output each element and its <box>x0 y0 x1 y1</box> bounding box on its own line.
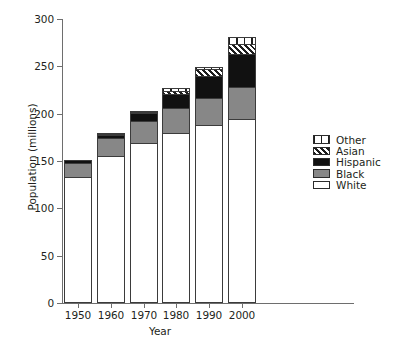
bar-2000 <box>228 37 256 303</box>
bar-segment-black <box>162 108 190 133</box>
bar-segment-asian <box>228 44 256 54</box>
y-axis-title: Population (millions) <box>26 57 38 257</box>
bar-segment-white <box>162 133 190 303</box>
bar-segment-black <box>130 121 158 143</box>
bar-segment-black <box>97 138 125 156</box>
y-tick-mark <box>57 19 63 20</box>
x-axis-line <box>62 303 354 304</box>
x-tick-mark <box>242 303 243 308</box>
bar-1960 <box>97 133 125 303</box>
bar-segment-white <box>64 177 92 303</box>
legend-label: Other <box>336 134 366 146</box>
stacked-bar-chart: 050100150200250300 195019601970198019902… <box>0 0 411 347</box>
y-tick-mark <box>57 161 63 162</box>
legend-label: Asian <box>336 145 365 157</box>
bar-segment-white <box>228 119 256 303</box>
legend-swatch-icon <box>313 158 330 166</box>
x-axis-title: Year <box>62 325 258 337</box>
y-tick-label: 300 <box>18 13 54 25</box>
bar-segment-hispanic <box>162 94 190 108</box>
x-tick-mark <box>144 303 145 308</box>
legend-item-hispanic: Hispanic <box>313 157 381 168</box>
y-tick-mark <box>57 114 63 115</box>
bar-1950 <box>64 160 92 303</box>
legend-swatch-icon <box>313 147 330 155</box>
legend-swatch-icon <box>313 181 330 189</box>
bar-segment-white <box>97 156 125 303</box>
legend-item-black: Black <box>313 168 381 179</box>
y-tick-mark <box>57 303 63 304</box>
bar-1980 <box>162 88 190 303</box>
legend-label: Hispanic <box>336 156 381 168</box>
legend-swatch-icon <box>313 169 330 177</box>
chart-legend: OtherAsianHispanicBlackWhite <box>313 134 381 190</box>
bar-1970 <box>130 111 158 303</box>
legend-swatch-icon <box>313 135 330 143</box>
bar-segment-hispanic <box>228 54 256 87</box>
legend-item-other: Other <box>313 134 381 145</box>
legend-item-asian: Asian <box>313 145 381 156</box>
legend-label: Black <box>336 168 364 180</box>
bar-segment-white <box>130 143 158 303</box>
y-tick-mark <box>57 208 63 209</box>
bar-segment-hispanic <box>195 76 223 98</box>
bar-1990 <box>195 67 223 303</box>
y-tick-label: 0 <box>18 297 54 309</box>
bar-segment-hispanic <box>130 113 158 122</box>
bar-segment-black <box>228 87 256 119</box>
x-tick-mark <box>176 303 177 308</box>
legend-label: White <box>336 179 367 191</box>
bar-segment-black <box>64 163 92 177</box>
x-tick-label: 2000 <box>220 309 264 321</box>
y-tick-mark <box>57 256 63 257</box>
y-tick-mark <box>57 66 63 67</box>
bar-segment-asian <box>195 69 223 76</box>
legend-item-white: White <box>313 179 381 190</box>
x-tick-mark <box>111 303 112 308</box>
bar-segment-black <box>195 98 223 125</box>
bar-segment-white <box>195 125 223 303</box>
bar-segment-other <box>228 37 256 44</box>
x-tick-mark <box>209 303 210 308</box>
x-tick-mark <box>78 303 79 308</box>
